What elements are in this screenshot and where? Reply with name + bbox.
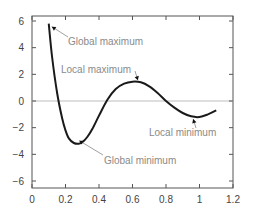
- arrowhead-icon: [192, 119, 196, 123]
- line-chart: 00.20.40.60.811.2 6420−2−4−6 Global maxi…: [0, 0, 274, 211]
- x-tick-labels: 00.20.40.60.811.2: [29, 194, 240, 205]
- x-tick-label: 0.2: [59, 194, 73, 205]
- y-tick-label: 4: [18, 42, 24, 53]
- x-tick-label: 0: [29, 194, 35, 205]
- annotation-label: Local minimum: [149, 127, 216, 138]
- x-tick-label: 0.4: [92, 194, 106, 205]
- annotation-label: Global minimum: [104, 155, 176, 166]
- annotation-label: Global maximum: [68, 36, 143, 47]
- x-tick-label: 0.8: [159, 194, 173, 205]
- y-tick-label: −4: [13, 149, 25, 160]
- x-tick-label: 1.2: [226, 194, 240, 205]
- x-tick-label: 1: [197, 194, 203, 205]
- x-tick-label: 0.6: [126, 194, 140, 205]
- y-tick-label: 6: [18, 16, 24, 27]
- y-tick-label: 0: [18, 96, 24, 107]
- y-tick-label: 2: [18, 69, 24, 80]
- annotations: Global maximumLocal maximumLocal minimum…: [52, 27, 217, 166]
- annotation-leader: [79, 141, 103, 155]
- arrowhead-icon: [135, 76, 139, 80]
- annotation-label: Local maximum: [61, 64, 131, 75]
- y-tick-labels: 6420−2−4−6: [13, 16, 25, 187]
- y-tick-label: −2: [13, 122, 25, 133]
- y-tick-label: −6: [13, 176, 25, 187]
